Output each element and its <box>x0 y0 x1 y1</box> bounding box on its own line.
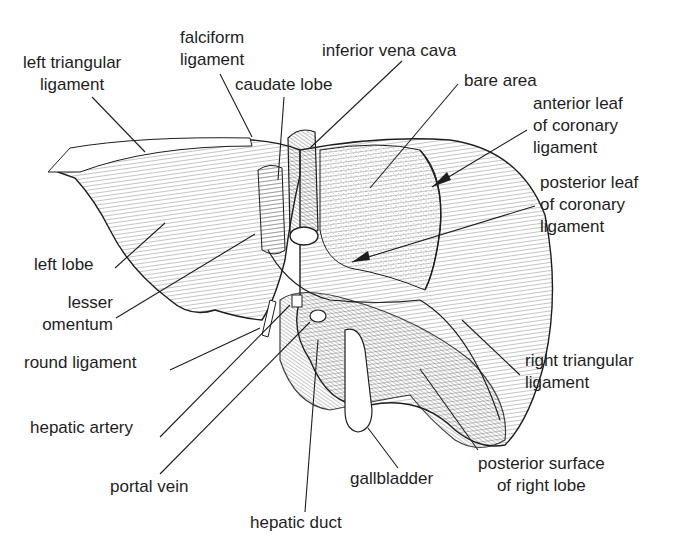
label-line: lesser <box>25 292 113 314</box>
label-line: right triangular <box>525 350 634 372</box>
label-gallbladder: gallbladder <box>350 468 433 490</box>
hepatic-artery-shape <box>292 295 302 307</box>
label-line: posterior surface <box>478 453 605 475</box>
label-line: of coronary <box>533 115 623 137</box>
label-right-triangular-ligament: right triangular ligament <box>525 350 634 394</box>
portal-vein-opening <box>310 310 326 322</box>
label-posterior-leaf-coronary-ligament: posterior leaf of coronary ligament <box>540 172 638 238</box>
label-line: ligament <box>533 137 623 159</box>
label-caudate-lobe: caudate lobe <box>235 74 332 96</box>
label-line: ligament <box>180 49 244 71</box>
label-line: omentum <box>25 314 113 336</box>
label-hepatic-duct: hepatic duct <box>250 512 342 534</box>
label-hepatic-artery: hepatic artery <box>30 417 133 439</box>
label-line: ligament <box>23 74 121 96</box>
label-line: ligament <box>525 372 634 394</box>
label-line: left triangular <box>23 52 121 74</box>
label-line: anterior leaf <box>533 93 623 115</box>
label-line: falciform <box>180 27 244 49</box>
label-line: ligament <box>540 216 638 238</box>
label-round-ligament: round ligament <box>24 352 136 374</box>
label-posterior-surface-right-lobe: posterior surface of right lobe <box>478 453 605 497</box>
label-bare-area: bare area <box>464 70 537 92</box>
label-anterior-leaf-coronary-ligament: anterior leaf of coronary ligament <box>533 93 623 159</box>
label-left-triangular-ligament: left triangular ligament <box>23 52 121 96</box>
label-line: posterior leaf <box>540 172 638 194</box>
label-falciform-ligament: falciform ligament <box>180 27 244 71</box>
label-left-lobe: left lobe <box>34 254 94 276</box>
label-portal-vein: portal vein <box>110 476 188 498</box>
ivc-shape <box>288 130 318 238</box>
label-lesser-omentum: lesser omentum <box>25 292 113 336</box>
ivc-opening <box>290 227 318 245</box>
label-line: of coronary <box>540 194 638 216</box>
caudate-lobe-shape <box>258 165 285 254</box>
label-line: of right lobe <box>478 475 605 497</box>
label-inferior-vena-cava: inferior vena cava <box>322 40 456 62</box>
